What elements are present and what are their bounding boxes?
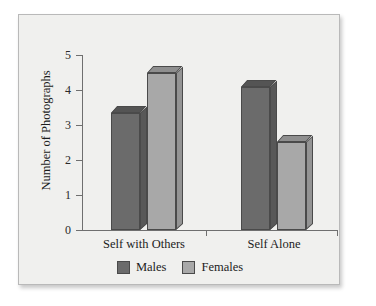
y-tick-label-0: 0 [55,224,71,236]
bar-front-face [241,87,270,230]
legend-label-males: Males [136,260,167,275]
y-tick-label-2: 2 [55,154,71,166]
chart-legend: Males Females [19,260,341,275]
category-label-self-alone: Self Alone [214,237,334,252]
y-axis-label: Number of Photographs [39,41,54,221]
y-tick-5 [76,55,82,56]
bar-males-self-alone [241,55,270,230]
bar-males-self-with-others [111,55,140,230]
x-axis-line [82,230,338,231]
y-axis-line [82,55,83,231]
bar-females-self-with-others [147,55,176,230]
x-tick-end [337,230,338,236]
bar-front-face [277,142,306,230]
legend-label-females: Females [201,260,243,275]
bar-side-face [140,107,147,230]
y-tick-1 [76,195,82,196]
bar-side-face [270,81,277,230]
y-tick-0 [76,230,82,231]
y-tick-label-3: 3 [55,119,71,131]
legend-swatch-males-icon [117,261,130,274]
y-tick-3 [76,125,82,126]
bar-females-self-alone [277,55,306,230]
y-tick-label-4: 4 [55,84,71,96]
bar-side-face [306,136,313,230]
legend-item-males: Males [117,260,167,275]
chart-figure: 5 4 3 2 1 0 Number of Photographs [18,14,340,285]
category-label-self-with-others: Self with Others [79,237,209,252]
y-tick-2 [76,160,82,161]
bar-front-face [147,73,176,230]
y-tick-label-1: 1 [55,189,71,201]
plot-area: 5 4 3 2 1 0 Number of Photographs [19,15,341,286]
bar-side-face [176,67,183,230]
bar-front-face [111,113,140,230]
y-tick-label-5: 5 [55,49,71,61]
y-tick-4 [76,90,82,91]
legend-item-females: Females [182,260,243,275]
legend-swatch-females-icon [182,261,195,274]
x-tick-divider [206,230,207,236]
